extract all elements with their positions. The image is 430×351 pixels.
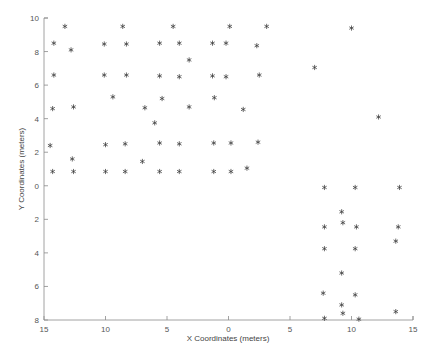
- data-point-marker: [353, 246, 358, 251]
- y-tick-label: 0: [35, 182, 40, 191]
- data-point-marker: [394, 239, 399, 244]
- data-point-marker: [152, 120, 157, 125]
- x-axis-title: X Coordinates (meters): [187, 334, 270, 343]
- data-point-marker: [255, 43, 260, 48]
- data-point-marker: [245, 166, 250, 171]
- data-point-marker: [71, 104, 76, 109]
- data-point-marker: [312, 65, 317, 70]
- data-point-marker: [102, 72, 107, 77]
- y-tick-label: 8: [35, 316, 40, 325]
- x-tick-label: 10: [101, 325, 110, 334]
- data-point-marker: [187, 57, 192, 62]
- data-point-marker: [50, 169, 55, 174]
- data-point-marker: [177, 41, 182, 46]
- data-point-marker: [143, 105, 148, 110]
- y-tick-label: 4: [35, 115, 40, 124]
- data-point-marker: [211, 140, 216, 145]
- y-tick-label: 2: [35, 148, 40, 157]
- data-point-marker: [63, 24, 68, 29]
- data-point-marker: [341, 311, 346, 316]
- data-point-marker: [177, 141, 182, 146]
- data-point-marker: [157, 41, 162, 46]
- data-point-marker: [103, 142, 108, 147]
- data-point-marker: [124, 41, 129, 46]
- data-point-marker: [341, 220, 346, 225]
- x-tick-label: 0: [226, 325, 231, 334]
- data-point-marker: [229, 169, 234, 174]
- data-point-marker: [357, 317, 362, 322]
- data-point-marker: [120, 24, 125, 29]
- data-point-marker: [396, 224, 401, 229]
- data-point-marker: [171, 24, 176, 29]
- x-tick-label: 5: [165, 325, 170, 334]
- data-point-marker: [339, 209, 344, 214]
- data-point-marker: [257, 72, 262, 77]
- data-point-marker: [177, 169, 182, 174]
- data-point-marker: [394, 309, 399, 314]
- data-point-marker: [157, 169, 162, 174]
- data-point-marker: [157, 140, 162, 145]
- y-tick-label: 6: [35, 81, 40, 90]
- data-point-marker: [353, 185, 358, 190]
- scatter-plot-figure: 1510505101510864202468 X Coordinates (me…: [0, 0, 430, 351]
- data-point-marker: [322, 224, 327, 229]
- y-tick-label: 10: [30, 14, 39, 23]
- y-tick-label: 4: [35, 249, 40, 258]
- data-points-group: [48, 24, 402, 322]
- data-point-marker: [177, 74, 182, 79]
- data-point-marker: [212, 95, 217, 100]
- data-point-marker: [52, 41, 57, 46]
- x-tick-label: 5: [288, 325, 293, 334]
- data-point-marker: [69, 47, 74, 52]
- data-point-marker: [210, 41, 215, 46]
- x-tick-label: 15: [40, 325, 49, 334]
- y-tick-label: 8: [35, 48, 40, 57]
- y-axis-title: Y Coordinates (meters): [17, 127, 26, 210]
- data-point-marker: [210, 73, 215, 78]
- data-point-marker: [397, 185, 402, 190]
- data-point-marker: [376, 114, 381, 119]
- y-tick-label: 2: [35, 215, 40, 224]
- x-tick-label: 15: [409, 325, 418, 334]
- data-point-marker: [124, 72, 129, 77]
- data-point-marker: [349, 25, 354, 30]
- data-point-marker: [52, 72, 57, 77]
- y-tick-label: 6: [35, 282, 40, 291]
- data-point-marker: [229, 140, 234, 145]
- data-point-marker: [241, 107, 246, 112]
- data-point-marker: [256, 140, 260, 145]
- data-point-marker: [160, 96, 165, 101]
- data-point-marker: [354, 224, 359, 229]
- data-point-marker: [211, 169, 216, 174]
- data-point-marker: [227, 24, 232, 29]
- data-point-marker: [48, 143, 53, 148]
- data-point-marker: [224, 41, 229, 46]
- data-point-marker: [102, 41, 107, 46]
- data-point-marker: [123, 141, 128, 146]
- data-point-marker: [339, 302, 344, 307]
- data-point-marker: [322, 246, 327, 251]
- tick-labels-group: 1510505101510864202468: [30, 14, 418, 334]
- data-point-marker: [157, 73, 162, 78]
- data-point-marker: [321, 291, 326, 296]
- data-point-marker: [71, 169, 76, 174]
- data-point-marker: [353, 292, 358, 297]
- data-point-marker: [70, 156, 75, 161]
- tick-marks-group: [44, 18, 413, 320]
- data-point-marker: [111, 94, 116, 99]
- plot-canvas: 1510505101510864202468 X Coordinates (me…: [0, 0, 430, 351]
- data-point-marker: [224, 74, 229, 79]
- data-point-marker: [50, 106, 55, 111]
- data-point-marker: [140, 159, 145, 164]
- x-tick-label: 10: [347, 325, 356, 334]
- data-point-marker: [339, 270, 344, 275]
- data-point-marker: [264, 24, 269, 29]
- axes-group: [44, 18, 413, 320]
- data-point-marker: [103, 169, 108, 174]
- data-point-marker: [123, 169, 128, 174]
- data-point-marker: [187, 104, 192, 109]
- data-point-marker: [322, 185, 327, 190]
